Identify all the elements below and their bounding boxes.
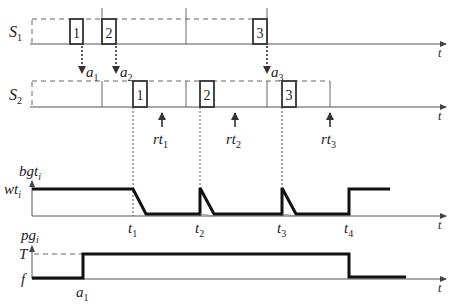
pg-y-label: pgi <box>20 227 39 245</box>
bgt-x-label: t <box>438 218 442 232</box>
a1-tick-label: a1 <box>76 284 89 303</box>
s2-job-label: 3 <box>286 88 293 103</box>
arrival-arrows: a1 a2 a3 <box>82 46 284 83</box>
rt-label: rt3 <box>321 131 336 150</box>
s1-time-label: t <box>438 46 442 60</box>
bgt-y-label: bgti <box>19 163 41 182</box>
s1-timeline: S1 t 1 2 3 <box>9 8 446 60</box>
pg-chart: pgi T f t a1 <box>19 227 446 303</box>
s2-job-label: 2 <box>204 88 211 103</box>
arrival-label: a2 <box>120 64 133 83</box>
pg-x-label: t <box>438 281 442 295</box>
arrival-label: a1 <box>86 64 99 83</box>
t4-tick-label: t4 <box>344 220 353 239</box>
s1-label: S1 <box>9 23 22 43</box>
s2-job-label: 1 <box>137 88 144 103</box>
s1-job-label: 3 <box>257 26 264 41</box>
t2-tick-label: t2 <box>195 220 204 239</box>
response-time-markers: rt1 rt2 rt3 <box>153 113 336 150</box>
timing-diagram: S1 t 1 2 3 a1 a2 a3 S2 t 1 2 <box>0 0 452 304</box>
s2-time-label: t <box>438 109 442 123</box>
rt-label: rt1 <box>153 131 168 150</box>
wt-level-label: wti <box>4 181 21 200</box>
pg-high-label: T <box>19 246 29 262</box>
bgt-curve <box>32 188 390 214</box>
t1-tick-label: t1 <box>128 220 137 239</box>
s2-label: S2 <box>9 86 22 106</box>
rt-label: rt2 <box>226 131 241 150</box>
s2-timeline: S2 t 1 2 3 <box>9 81 446 123</box>
pg-low-label: f <box>21 271 27 287</box>
t3-tick-label: t3 <box>277 220 286 239</box>
bgt-chart: bgti wti t t1 t2 t3 t4 <box>4 163 446 239</box>
pg-curve <box>32 254 406 278</box>
s1-job-label: 2 <box>106 26 113 41</box>
s1-job-label: 1 <box>73 26 80 41</box>
